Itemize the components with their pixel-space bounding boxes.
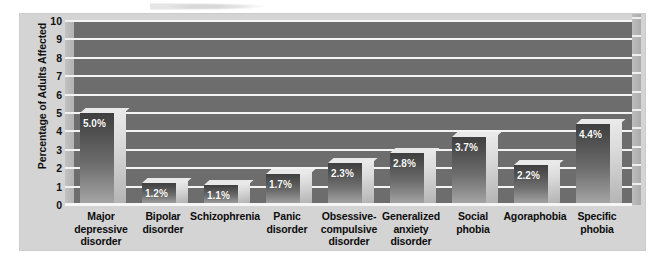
category-label-line: Specific	[561, 210, 633, 223]
bar-side-face	[300, 171, 312, 205]
bar-value-label: 4.4%	[579, 129, 602, 140]
category-label-line: disorder	[375, 235, 447, 248]
y-axis-tick-label: 4	[42, 126, 62, 137]
y-axis-tick-labels: 109876543210	[42, 21, 62, 205]
y-axis-tick-label: 3	[42, 145, 62, 156]
bar-side-face	[424, 151, 436, 205]
category-label-line: disorder	[127, 223, 199, 236]
y-axis-tick-label: 7	[42, 71, 62, 82]
gridline	[74, 149, 632, 151]
plot-right-wall	[632, 14, 641, 205]
gridline	[74, 75, 632, 77]
x-axis-baseline	[65, 203, 632, 206]
gridline	[74, 112, 632, 114]
y-axis-tick-label: 6	[42, 89, 62, 100]
x-axis-category-labels: MajordepressivedisorderBipolardisorderSc…	[65, 210, 641, 250]
plot-area: 5.0%1.2%1.1%1.7%2.3%2.8%3.7%2.2%4.4%	[74, 21, 632, 205]
bar-side-face	[238, 182, 250, 205]
bar-group[interactable]: 5.0%	[80, 113, 114, 205]
bar-group[interactable]: 2.3%	[328, 163, 362, 205]
category-label-line: phobia	[561, 223, 633, 236]
gridline	[74, 57, 632, 59]
bar-value-label: 3.7%	[455, 142, 478, 153]
bar-group[interactable]: 1.1%	[204, 185, 238, 205]
plot-left-wall	[65, 21, 74, 205]
bar-side-face	[362, 160, 374, 205]
right-wall-tick	[632, 146, 641, 148]
bar-group[interactable]: 3.7%	[452, 137, 486, 205]
bar-group[interactable]: 2.2%	[514, 165, 548, 205]
bar-group[interactable]: 1.2%	[142, 183, 176, 205]
bar-side-face	[548, 162, 560, 205]
right-wall-tick	[632, 17, 641, 19]
bar-group[interactable]: 1.7%	[266, 174, 300, 205]
gridline	[74, 38, 632, 40]
bar-side-face	[610, 122, 622, 205]
left-wall-tick	[65, 130, 74, 132]
left-wall-tick	[65, 57, 74, 59]
left-wall-tick	[65, 167, 74, 169]
bar-value-label: 2.2%	[517, 170, 540, 181]
bar-side-face	[486, 135, 498, 205]
left-wall-tick	[65, 38, 74, 40]
left-wall-tick	[65, 75, 74, 77]
right-wall-tick	[632, 109, 641, 111]
gridline	[74, 20, 632, 22]
category-label: Specificphobia	[561, 210, 633, 235]
left-wall-tick	[65, 20, 74, 22]
right-wall-tick	[632, 91, 641, 93]
category-label-line: disorder	[65, 235, 137, 248]
y-axis-tick-label: 9	[42, 34, 62, 45]
y-axis-tick-label: 10	[42, 16, 62, 27]
bar-value-label: 1.1%	[207, 190, 230, 201]
scan-artifact	[0, 0, 665, 14]
bar-value-label: 2.8%	[393, 158, 416, 169]
right-wall-tick	[632, 164, 641, 166]
bar-side-face	[176, 181, 188, 205]
right-wall-tick	[632, 72, 641, 74]
right-wall-tick	[632, 54, 641, 56]
category-label-line: phobia	[437, 223, 509, 236]
left-wall-tick	[65, 149, 74, 151]
bar-group[interactable]: 2.8%	[390, 153, 424, 205]
bar-group[interactable]: 4.4%	[576, 124, 610, 205]
right-wall-tick	[632, 127, 641, 129]
bar-side-face	[114, 111, 126, 205]
bar-value-label: 2.3%	[331, 168, 354, 179]
y-axis-tick-label: 1	[42, 181, 62, 192]
y-axis-tick-label: 0	[42, 200, 62, 211]
bar-value-label: 5.0%	[83, 118, 106, 129]
gridline	[74, 130, 632, 132]
y-axis-tick-label: 5	[42, 108, 62, 119]
left-wall-tick	[65, 94, 74, 96]
y-axis-tick-label: 8	[42, 53, 62, 64]
left-wall-tick	[65, 112, 74, 114]
y-axis-tick-label: 2	[42, 163, 62, 174]
gridline	[74, 94, 632, 96]
right-wall-tick	[632, 183, 641, 185]
right-wall-tick	[632, 35, 641, 37]
bar-chart-figure: Percentage of Adults Affected 1098765432…	[20, 14, 645, 250]
bar-value-label: 1.2%	[145, 188, 168, 199]
left-wall-tick	[65, 186, 74, 188]
bar-value-label: 1.7%	[269, 179, 292, 190]
